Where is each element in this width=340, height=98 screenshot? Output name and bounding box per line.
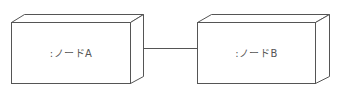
node-b-top-face xyxy=(198,15,330,23)
node-a-label: :ノードA xyxy=(11,45,131,60)
node-a-top-face xyxy=(12,15,144,23)
node-b-label: :ノードB xyxy=(197,45,316,60)
node-a-side-face xyxy=(131,15,144,84)
node-b-side-face xyxy=(316,15,330,84)
